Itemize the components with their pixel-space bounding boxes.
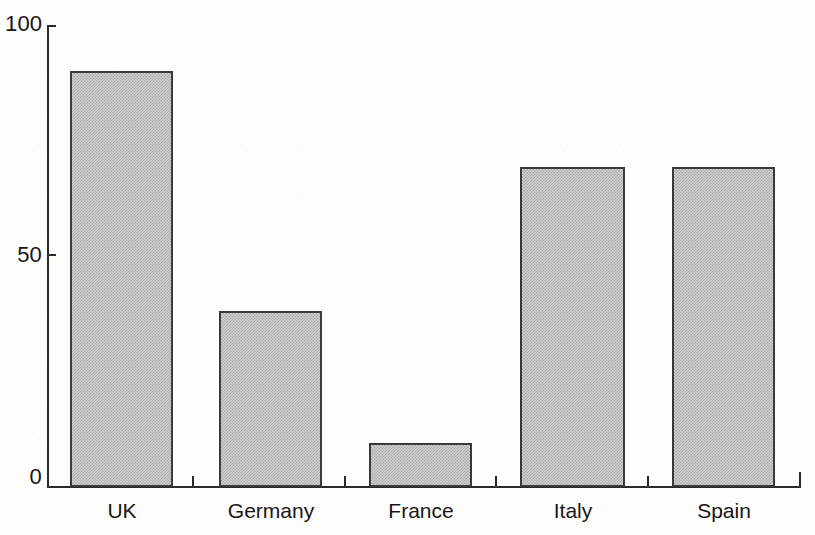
y-axis-line bbox=[47, 25, 49, 488]
y-axis-top-tick bbox=[47, 25, 56, 27]
x-tick-2 bbox=[344, 476, 346, 487]
y-tick-50 bbox=[47, 254, 56, 256]
y-tick-label-0: 0 bbox=[5, 466, 42, 488]
y-tick-label-50: 50 bbox=[5, 244, 42, 266]
x-tick-label-germany: Germany bbox=[220, 500, 322, 521]
x-tick-label-uk: UK bbox=[71, 500, 173, 521]
y-tick-label-100: 100 bbox=[5, 13, 42, 35]
bar-spain bbox=[672, 167, 775, 487]
x-tick-3 bbox=[495, 476, 497, 487]
x-tick-4 bbox=[647, 476, 649, 487]
bar-germany bbox=[219, 311, 322, 487]
bar-france bbox=[369, 443, 472, 487]
x-tick-label-italy: Italy bbox=[521, 500, 625, 521]
x-axis-end-tick bbox=[799, 472, 801, 488]
bar-italy bbox=[520, 167, 625, 487]
x-tick-1 bbox=[192, 476, 194, 487]
bar-uk bbox=[70, 71, 173, 487]
x-tick-label-spain: Spain bbox=[673, 500, 775, 521]
x-tick-label-france: France bbox=[370, 500, 472, 521]
bar-chart: 100 50 0 UK Germany France Italy Spain bbox=[0, 0, 815, 535]
